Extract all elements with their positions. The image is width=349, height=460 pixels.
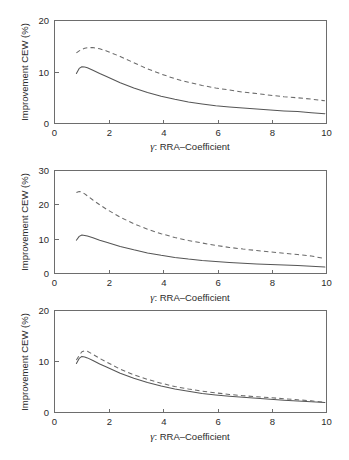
panel-3-xticklabel-4: 4 bbox=[161, 416, 166, 427]
panel-2-xticklabel-10: 10 bbox=[321, 277, 332, 288]
panel-2-yticklabel-10: 10 bbox=[38, 234, 49, 245]
panel-3-curve-solid bbox=[76, 356, 325, 402]
chart-panel-1: 0 2 4 6 8 10 0 10 20 Improvement CEW (%)… bbox=[0, 0, 349, 152]
panel-1-svg: 0 2 4 6 8 10 0 10 20 Improvement CEW (%)… bbox=[0, 0, 349, 152]
panel-3-yticklabel-20: 20 bbox=[38, 306, 49, 316]
panel-2-yticklabel-0: 0 bbox=[44, 268, 49, 279]
panel-3-x-ticks bbox=[55, 409, 327, 413]
panel-1-plot-frame bbox=[55, 21, 327, 124]
panel-2-xlabel-rest: : RRA–Coefficient bbox=[154, 292, 230, 303]
panel-3-y-ticks bbox=[55, 311, 59, 413]
panel-1-yticklabel-20: 20 bbox=[38, 15, 49, 26]
panel-2-curve-dashed bbox=[76, 192, 325, 259]
panel-1-xticklabel-6: 6 bbox=[215, 127, 220, 138]
panel-3-xticklabel-2: 2 bbox=[107, 416, 112, 427]
panel-2-plot-frame bbox=[55, 171, 327, 274]
panel-1-xticklabel-2: 2 bbox=[107, 127, 112, 138]
panel-2-svg: 0 2 4 6 8 10 0 10 20 30 Improvement CEW … bbox=[0, 152, 349, 306]
panel-2-ylabel: Improvement CEW (%) bbox=[19, 173, 30, 271]
panel-1-ylabel: Improvement CEW (%) bbox=[19, 23, 30, 121]
panel-2-xlabel: γ: RRA–Coefficient bbox=[150, 292, 230, 303]
panel-2-yticklabel-30: 30 bbox=[38, 165, 49, 176]
panel-1-curve-solid bbox=[76, 67, 325, 114]
panel-2-xticklabel-2: 2 bbox=[107, 277, 112, 288]
panel-1-xticklabel-8: 8 bbox=[270, 127, 275, 138]
panel-1-x-ticks bbox=[55, 120, 327, 124]
panel-3-xticklabel-8: 8 bbox=[270, 416, 275, 427]
panel-1-xticklabel-10: 10 bbox=[321, 127, 332, 138]
panel-3-yticklabel-10: 10 bbox=[38, 356, 49, 367]
panel-1-xticklabel-0: 0 bbox=[52, 127, 57, 138]
panel-3-xlabel-rest: : RRA–Coefficient bbox=[154, 431, 230, 442]
panel-1-xticklabel-4: 4 bbox=[161, 127, 166, 138]
chart-panel-2: 0 2 4 6 8 10 0 10 20 30 Improvement CEW … bbox=[0, 152, 349, 306]
panel-3-ylabel: Improvement CEW (%) bbox=[19, 313, 30, 411]
panel-1-xlabel: γ: RRA–Coefficient bbox=[150, 141, 230, 152]
panel-3-xticklabel-0: 0 bbox=[52, 416, 57, 427]
chart-panel-3: 0 2 4 6 8 10 0 10 20 Improvement CEW (%)… bbox=[0, 306, 349, 460]
panel-3-xticklabel-10: 10 bbox=[321, 416, 332, 427]
panel-2-x-ticks bbox=[55, 270, 327, 274]
panel-2-xticklabel-0: 0 bbox=[52, 277, 57, 288]
panel-1-yticklabel-0: 0 bbox=[44, 118, 49, 129]
panel-2-xticklabel-4: 4 bbox=[161, 277, 166, 288]
panel-3-xticklabel-6: 6 bbox=[215, 416, 220, 427]
panel-1-yticklabel-10: 10 bbox=[38, 67, 49, 78]
panel-2-yticklabel-20: 20 bbox=[38, 199, 49, 210]
panel-1-xlabel-rest: : RRA–Coefficient bbox=[154, 141, 230, 152]
panel-2-xticklabel-6: 6 bbox=[215, 277, 220, 288]
panel-3-svg: 0 2 4 6 8 10 0 10 20 Improvement CEW (%)… bbox=[0, 306, 349, 460]
panel-3-xlabel: γ: RRA–Coefficient bbox=[150, 431, 230, 442]
panel-1-curve-dashed bbox=[76, 48, 325, 101]
panel-2-xticklabel-8: 8 bbox=[270, 277, 275, 288]
panel-3-yticklabel-0: 0 bbox=[44, 407, 49, 418]
panel-2-curve-solid bbox=[76, 235, 325, 267]
panel-1-y-ticks bbox=[55, 21, 59, 124]
panel-3-curve-dashed bbox=[76, 351, 325, 403]
figure-root: 0 2 4 6 8 10 0 10 20 Improvement CEW (%)… bbox=[0, 0, 349, 460]
panel-2-y-ticks bbox=[55, 171, 59, 274]
